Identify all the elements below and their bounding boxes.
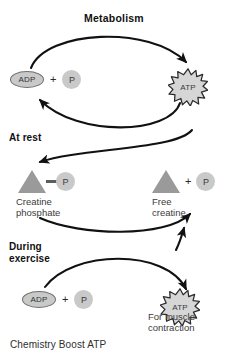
adp-label-top: ADP — [18, 75, 35, 84]
adp-label-bottom: ADP — [30, 295, 47, 304]
atp-bottom-description: For muscle contraction — [148, 311, 195, 333]
plus-sign-top: + — [50, 74, 56, 85]
creatine-triangle-left — [18, 170, 46, 193]
section-title-metabolism: Metabolism — [62, 12, 166, 24]
section-title-at-rest: At rest — [9, 132, 41, 144]
atp-starburst-top: ATP — [168, 68, 208, 106]
creatine-phosphate-label: Creatine phosphate — [16, 196, 60, 218]
phosphate-circle-top: P — [62, 70, 81, 89]
arrow-exercise-adp-to-atp — [45, 259, 186, 289]
adp-phosphate-group-bottom: ADP + P — [22, 290, 93, 309]
phosphate-label-top: P — [69, 75, 75, 85]
figure-caption: Chemistry Boost ATP — [10, 339, 106, 350]
free-creatine-label: Free creatine — [152, 196, 186, 218]
plus-sign-mid: + — [185, 176, 191, 187]
atp-cycle-diagram: ATP (big top arc) --> Metabolism At rest… — [0, 0, 227, 358]
arrow-exercise-atp-to-creatine — [176, 228, 184, 250]
creatine-phosphate-group: P — [18, 170, 75, 193]
phosphate-circle-bottom: P — [74, 290, 93, 309]
plus-sign-bottom: + — [62, 294, 68, 305]
adp-ellipse-bottom: ADP — [22, 291, 56, 308]
adp-ellipse-top: ADP — [10, 71, 44, 88]
creatine-triangle-right — [152, 170, 180, 193]
starburst-icon — [168, 68, 208, 106]
arrow-metabolism-forward — [31, 37, 186, 68]
arrow-atrest-atp-to-adp — [40, 100, 180, 127]
phosphate-label-bottom: P — [81, 295, 87, 305]
arrow-atrest-creatine-to-cp — [40, 130, 192, 162]
phosphate-circle-free: P — [196, 172, 215, 191]
phosphate-label-bound: P — [62, 177, 68, 187]
section-title-during-exercise: During exercise — [9, 241, 50, 264]
phosphate-circle-bound: P — [56, 172, 75, 191]
adp-phosphate-group-top: ADP + P — [10, 70, 81, 89]
free-creatine-group: + P — [152, 170, 215, 193]
phosphate-label-free: P — [203, 177, 209, 187]
